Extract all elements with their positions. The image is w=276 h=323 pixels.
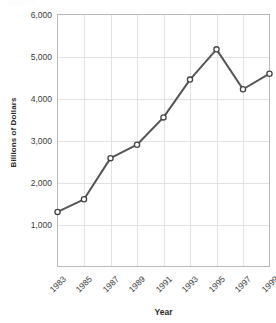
data-point-marker [267, 71, 272, 76]
data-point-marker [81, 197, 86, 202]
data-point-marker [240, 87, 245, 92]
data-line [58, 49, 270, 212]
x-axis-title: Year [57, 307, 270, 317]
plot-frame [58, 15, 270, 267]
data-point-marker [214, 47, 219, 52]
data-point-marker [161, 115, 166, 120]
data-markers [55, 47, 272, 215]
data-point-marker [134, 142, 139, 147]
data-point-marker [55, 209, 60, 214]
chart-figure: GRAPH Billions of Dollars 1,0002,0003,00… [0, 0, 276, 323]
data-point-marker [187, 77, 192, 82]
data-point-marker [108, 156, 113, 161]
